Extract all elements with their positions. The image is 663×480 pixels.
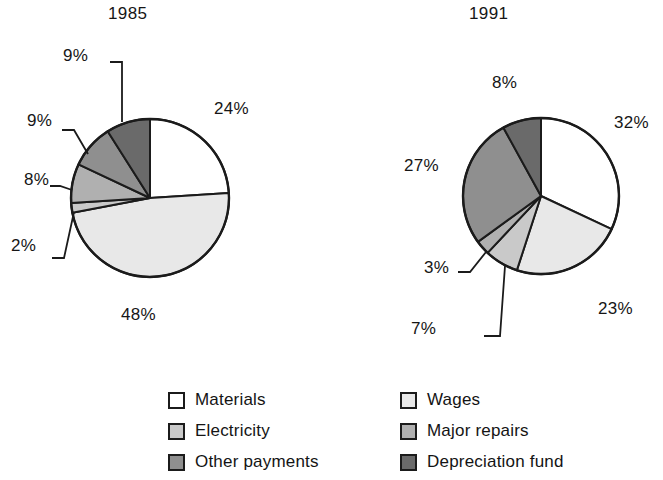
legend-swatch-wages (400, 392, 417, 409)
label-1991-wages: 23% (598, 299, 633, 319)
legend-swatch-materials (168, 392, 185, 409)
legend-item-other-payments[interactable]: Other payments (168, 448, 319, 476)
legend-item-materials[interactable]: Materials (168, 386, 319, 414)
legend: Materials Electricity Other payments Wag… (168, 386, 638, 478)
legend-item-wages[interactable]: Wages (400, 386, 564, 414)
legend-swatch-other-payments (168, 454, 185, 471)
legend-column-left: Materials Electricity Other payments (168, 386, 319, 479)
leader-line (458, 252, 486, 272)
legend-label-depreciation-fund: Depreciation fund (427, 452, 564, 472)
legend-swatch-depreciation-fund (400, 454, 417, 471)
label-1991-depreciation-fund: 8% (492, 73, 517, 93)
legend-item-electricity[interactable]: Electricity (168, 417, 319, 445)
legend-item-major-repairs[interactable]: Major repairs (400, 417, 564, 445)
label-1991-major-repairs: 3% (424, 258, 449, 278)
chart-canvas: 1985 24% 48% 2% 8% 9% 9% 1991 32% 23% 7%… (0, 0, 663, 480)
label-1991-other-payments: 27% (404, 156, 439, 176)
legend-swatch-major-repairs (400, 423, 417, 440)
legend-label-other-payments: Other payments (195, 452, 319, 472)
legend-column-right: Wages Major repairs Depreciation fund (400, 386, 564, 479)
legend-label-materials: Materials (195, 390, 266, 410)
legend-label-wages: Wages (427, 390, 480, 410)
legend-swatch-electricity (168, 423, 185, 440)
legend-item-depreciation-fund[interactable]: Depreciation fund (400, 448, 564, 476)
leader-line (484, 266, 505, 336)
label-1991-electricity: 7% (411, 319, 436, 339)
label-1991-materials: 32% (614, 113, 649, 133)
legend-label-electricity: Electricity (195, 421, 270, 441)
legend-label-major-repairs: Major repairs (427, 421, 529, 441)
